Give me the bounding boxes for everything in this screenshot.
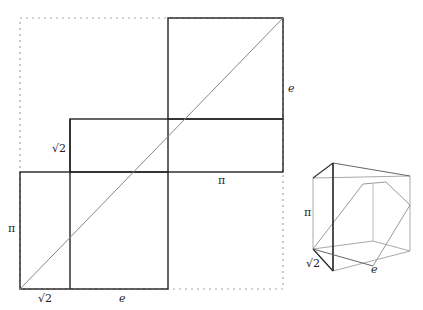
label-box-pi: π (304, 206, 311, 219)
label-bottom-sqrt2: √2 (38, 292, 52, 305)
label-middle-sqrt2: √2 (52, 142, 66, 155)
label-middle-pi: π (218, 174, 225, 187)
label-box-e: e (371, 263, 378, 276)
box-3d (313, 163, 410, 271)
top-square (168, 18, 283, 119)
middle-rect (70, 119, 283, 172)
label-top-e: e (288, 82, 295, 95)
diagram-canvas: e √2 π π √2 e π √2 e (0, 0, 423, 310)
bottom-rect (20, 172, 168, 289)
label-bottom-pi: π (8, 222, 15, 235)
label-box-sqrt2: √2 (306, 257, 320, 270)
label-bottom-e: e (119, 292, 126, 305)
